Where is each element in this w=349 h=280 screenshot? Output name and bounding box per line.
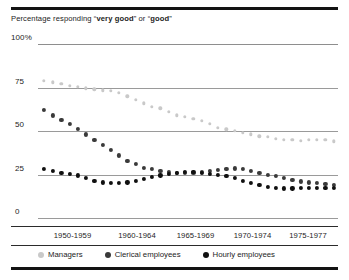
data-point — [42, 108, 46, 112]
data-point — [274, 174, 278, 178]
legend-item-managers[interactable]: Managers — [38, 250, 83, 259]
x-tick-label-1975-1977: 1975-1977 — [289, 231, 327, 240]
data-point — [216, 126, 219, 129]
data-point — [117, 181, 121, 185]
title-part-bold-very-good: very good — [96, 14, 133, 23]
data-point — [133, 162, 137, 166]
data-point — [241, 167, 245, 171]
data-point — [51, 169, 55, 173]
data-point — [249, 181, 253, 185]
data-point — [158, 173, 162, 177]
data-point — [266, 135, 269, 138]
gridline-100 — [38, 44, 338, 45]
data-point — [142, 101, 145, 104]
title-part-mid: ” or “ — [134, 14, 151, 23]
data-point — [249, 133, 252, 136]
data-point — [159, 107, 162, 110]
data-point — [299, 139, 302, 142]
x-tick-label-1950-1959: 1950-1959 — [54, 231, 92, 240]
data-point — [150, 105, 153, 108]
data-point — [331, 185, 335, 189]
data-point — [183, 115, 186, 118]
data-point — [84, 176, 88, 180]
data-point — [60, 82, 63, 85]
chart-figure: Percentage responding “very good” or “go… — [0, 0, 349, 280]
data-point — [109, 89, 112, 92]
data-point — [51, 113, 55, 117]
data-point — [265, 185, 269, 189]
data-point — [298, 179, 302, 183]
plot-area — [38, 44, 338, 218]
data-point — [51, 81, 54, 84]
chart-legend: ManagersClerical employeesHourly employe… — [38, 250, 297, 259]
data-point — [241, 178, 245, 182]
title-part-suffix: ” — [169, 14, 172, 23]
x-tick-label-1960-1964: 1960-1964 — [118, 231, 156, 240]
data-point — [224, 167, 228, 171]
data-point — [232, 176, 236, 180]
top-rule — [11, 7, 338, 10]
data-point — [42, 79, 45, 82]
data-point — [298, 185, 302, 189]
y-tick-label-100: 100% — [11, 33, 32, 42]
bottom-rule — [11, 267, 338, 270]
data-point — [125, 180, 129, 184]
y-tick-label-75: 75 — [15, 77, 24, 86]
legend-item-hourly-employees[interactable]: Hourly employees — [203, 250, 275, 259]
data-point — [258, 135, 261, 138]
data-point — [290, 186, 294, 190]
title-part-prefix: Percentage responding “ — [11, 14, 96, 23]
x-tick-label-1970-1974: 1970-1974 — [234, 231, 272, 240]
data-point — [265, 172, 269, 176]
data-point — [126, 94, 129, 97]
data-point — [150, 175, 154, 179]
data-point — [100, 180, 104, 184]
data-point — [109, 148, 113, 152]
data-point — [307, 185, 311, 189]
data-point — [150, 167, 154, 171]
data-point — [332, 140, 335, 143]
legend-label: Managers — [48, 250, 83, 259]
legend-swatch-icon — [105, 252, 111, 258]
legend-label: Hourly employees — [213, 250, 275, 259]
data-point — [291, 138, 294, 141]
data-point — [216, 172, 220, 176]
legend-divider — [11, 245, 338, 246]
data-point — [109, 181, 113, 185]
y-tick-label-50: 50 — [15, 120, 24, 129]
data-point — [67, 122, 71, 126]
x-axis-line — [11, 226, 338, 227]
data-point — [59, 118, 63, 122]
data-point — [233, 129, 236, 132]
data-point — [315, 185, 319, 189]
data-point — [134, 98, 137, 101]
chart-title: Percentage responding “very good” or “go… — [11, 13, 341, 24]
data-point — [282, 138, 285, 141]
data-point — [324, 138, 327, 141]
gridline-50 — [38, 131, 338, 132]
title-part-bold-good: good — [150, 14, 169, 23]
data-point — [92, 178, 96, 182]
legend-swatch-icon — [38, 252, 44, 258]
data-point — [241, 131, 244, 134]
data-point — [101, 88, 104, 91]
data-point — [282, 186, 286, 190]
data-point — [290, 178, 294, 182]
legend-item-clerical-employees[interactable]: Clerical employees — [105, 250, 181, 259]
data-point — [192, 117, 195, 120]
data-point — [84, 132, 88, 136]
data-point — [76, 173, 80, 177]
data-point — [117, 153, 121, 157]
data-point — [208, 122, 211, 125]
data-point — [274, 185, 278, 189]
data-point — [282, 176, 286, 180]
data-point — [224, 174, 228, 178]
data-point — [142, 165, 146, 169]
data-point — [257, 183, 261, 187]
data-point — [167, 110, 170, 113]
data-point — [249, 169, 253, 173]
data-point — [92, 138, 96, 142]
data-point — [100, 143, 104, 147]
legend-label: Clerical employees — [115, 250, 181, 259]
y-tick-label-25: 25 — [15, 164, 24, 173]
